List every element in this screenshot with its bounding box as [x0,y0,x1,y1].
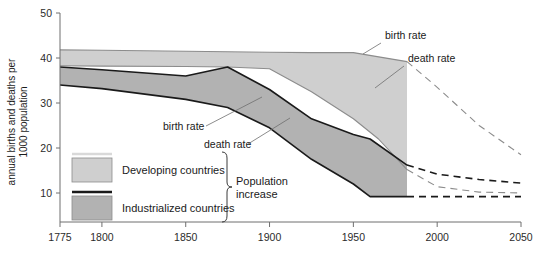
y-tick-label-40: 40 [40,52,52,64]
birth-rate-industrial-label: birth rate [163,120,205,132]
x-tick-label-1850: 1850 [174,231,198,243]
legend-label-1: Industrialized countries [122,202,235,214]
y-tick-label-20: 20 [40,142,52,154]
birth-rate-developing-label: birth rate [385,29,427,41]
x-tick-label-2050: 2050 [509,231,533,243]
y-tick-label-10: 10 [40,187,52,199]
legend-label-0: Developing countries [122,164,225,176]
x-tick-label-1900: 1900 [258,231,282,243]
demographic-transition-chart: 10203040501775180018501900195020002050 b… [0,0,534,255]
y-tick-label-30: 30 [40,97,52,109]
y-tick-label-50: 50 [40,7,52,19]
y-axis-title-line2: 1000 population [18,86,29,157]
legend-swatch-0 [72,158,112,182]
y-axis-title-line1: annual births and deaths per [6,58,17,185]
x-tick-label-1950: 1950 [342,231,366,243]
x-tick-label-1800: 1800 [90,231,114,243]
death-rate-industrial-label: death rate [204,138,251,150]
x-tick-label-2000: 2000 [426,231,450,243]
x-tick-label-1775: 1775 [48,231,72,243]
population-increase-line2: increase [236,188,278,200]
population-increase-line1: Population [236,175,288,187]
legend-swatch-1 [72,196,112,220]
death-rate-developing-label: death rate [408,52,455,64]
chart-figure: 10203040501775180018501900195020002050 b… [0,0,534,255]
